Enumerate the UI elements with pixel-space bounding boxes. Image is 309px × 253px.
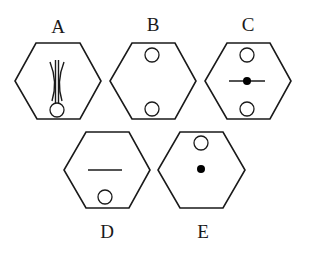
open-circle-icon [145, 48, 159, 62]
option-c-label: C [242, 14, 255, 35]
open-circle-icon [240, 48, 254, 62]
option-b: B [110, 14, 196, 119]
option-d-label: D [100, 221, 114, 242]
option-d: D [64, 132, 150, 242]
option-a: A [15, 16, 101, 119]
option-a-label: A [51, 16, 65, 37]
option-c: C [205, 14, 291, 119]
crossing-lines-icon [50, 60, 64, 103]
open-circle-icon [98, 190, 112, 204]
hexagon-options-figure: A B C [0, 0, 309, 253]
option-b-label: B [147, 14, 160, 35]
open-circle-icon [240, 102, 254, 116]
filled-dot-icon [197, 165, 205, 173]
option-e-label: E [197, 221, 209, 242]
option-e: E [158, 132, 245, 242]
open-circle-icon [50, 103, 64, 117]
open-circle-icon [194, 136, 208, 150]
open-circle-icon [145, 102, 159, 116]
filled-dot-icon [243, 77, 251, 85]
